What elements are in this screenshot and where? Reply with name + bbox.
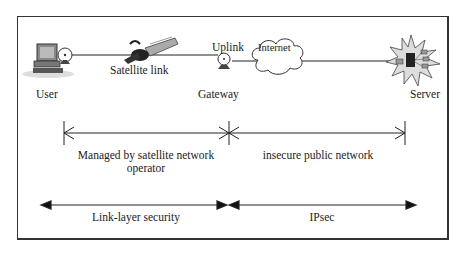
- user-label: User: [36, 88, 58, 101]
- security-arrows: [41, 201, 416, 209]
- internet-label: Internet: [258, 42, 291, 54]
- server-label: Server: [410, 88, 440, 101]
- link-layer-security-label: Link-layer security: [50, 211, 222, 224]
- managed-span-line2: operator: [66, 162, 226, 175]
- satellite-link-label: Satellite link: [110, 64, 168, 77]
- ipsec-label: IPsec: [232, 211, 412, 224]
- gateway-label: Gateway: [198, 88, 239, 101]
- managed-span-label: Managed by satellite network operator: [66, 149, 226, 175]
- uplink-label: Uplink: [212, 41, 244, 54]
- public-span-label: insecure public network: [230, 149, 406, 162]
- gateway-dish-icon: [218, 53, 230, 69]
- managed-span-line1: Managed by satellite network: [66, 149, 226, 162]
- server-burst-icon: [386, 35, 440, 86]
- satellite-icon: [124, 37, 178, 64]
- span-arrows: [64, 121, 405, 145]
